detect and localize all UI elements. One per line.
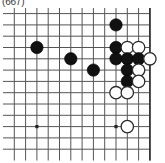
- white-stone: [132, 75, 144, 87]
- white-stone: [144, 53, 156, 65]
- black-stone: [121, 53, 133, 65]
- star-point: [35, 125, 38, 128]
- black-stone: [132, 53, 144, 65]
- star-point: [114, 125, 117, 128]
- go-board: [0, 8, 165, 163]
- go-board-canvas: [0, 8, 165, 163]
- white-stone: [132, 64, 144, 76]
- black-stone: [65, 53, 77, 65]
- white-stone: [121, 87, 133, 99]
- black-stone: [110, 53, 122, 65]
- black-stone: [31, 41, 43, 53]
- black-stone: [87, 64, 99, 76]
- black-stone: [121, 75, 133, 87]
- white-stone: [110, 87, 122, 99]
- figure-caption: (667): [2, 0, 24, 7]
- white-stone: [121, 120, 133, 132]
- black-stone: [110, 41, 122, 53]
- black-stone: [121, 64, 133, 76]
- go-diagram-figure: (667): [0, 0, 165, 163]
- white-stone: [121, 41, 133, 53]
- black-stone: [110, 19, 122, 31]
- white-stone: [132, 41, 144, 53]
